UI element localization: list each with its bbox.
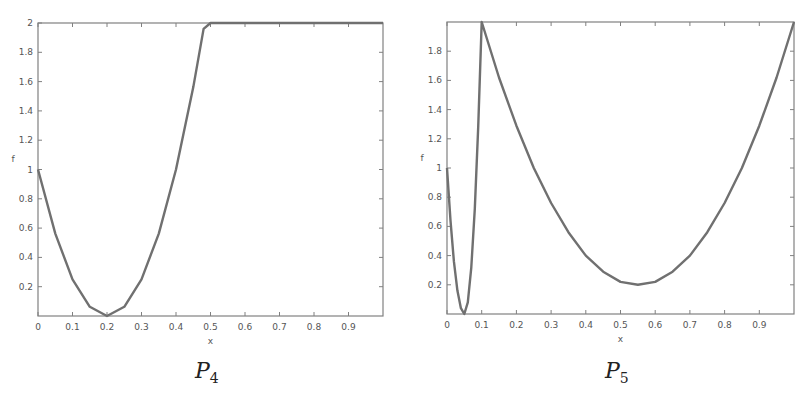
x-tick-label: 0: [444, 320, 450, 330]
x-tick-label: 0.1: [475, 320, 489, 330]
y-tick-label: 0.2: [19, 282, 33, 292]
caption-p4-main: P: [195, 358, 210, 383]
x-tick-label: 0.1: [65, 322, 79, 332]
plot-frame: [38, 23, 383, 316]
y-tick-label: 1.8: [428, 46, 443, 56]
y-tick-label: 0.6: [19, 223, 34, 233]
y-axis-label: f: [420, 153, 424, 163]
y-tick-label: 1.8: [19, 47, 34, 57]
x-tick-label: 0.5: [203, 322, 217, 332]
chart-p4: 00.10.20.30.40.50.60.70.80.90.20.40.60.8…: [0, 0, 400, 360]
y-tick-label: 1: [436, 163, 442, 173]
x-tick-label: 0.4: [579, 320, 594, 330]
caption-p4-sub: 4: [210, 370, 219, 386]
x-tick-label: 0.3: [544, 320, 558, 330]
x-tick-label: 0: [35, 322, 41, 332]
y-tick-label: 1: [27, 165, 33, 175]
chart-p5: 00.10.20.30.40.50.60.70.80.90.20.40.60.8…: [400, 0, 802, 360]
x-tick-label: 0.8: [717, 320, 732, 330]
y-tick-label: 0.4: [19, 252, 34, 262]
caption-p5-sub: 5: [620, 370, 629, 386]
y-tick-label: 1.6: [19, 77, 34, 87]
y-tick-label: 1.6: [428, 75, 443, 85]
x-tick-label: 0.9: [341, 322, 356, 332]
series-line: [447, 22, 794, 314]
caption-p5: P5: [605, 358, 629, 386]
y-tick-label: 1.2: [19, 135, 33, 145]
x-tick-label: 0.4: [169, 322, 184, 332]
x-tick-label: 0.2: [509, 320, 523, 330]
plot-p5: 00.10.20.30.40.50.60.70.80.90.20.40.60.8…: [400, 0, 802, 360]
y-tick-label: 0.8: [19, 194, 34, 204]
series-line: [38, 23, 383, 316]
x-tick-label: 0.6: [238, 322, 253, 332]
caption-p4: P4: [195, 358, 219, 386]
x-axis-label: x: [208, 336, 214, 346]
y-tick-label: 0.4: [428, 251, 443, 261]
x-tick-label: 0.8: [307, 322, 322, 332]
plot-p4: 00.10.20.30.40.50.60.70.80.90.20.40.60.8…: [0, 0, 400, 360]
x-tick-label: 0.2: [100, 322, 114, 332]
caption-p5-main: P: [605, 358, 620, 383]
x-tick-label: 0.7: [683, 320, 697, 330]
x-tick-label: 0.3: [134, 322, 148, 332]
y-tick-label: 1.2: [428, 134, 442, 144]
x-axis-label: x: [618, 334, 624, 344]
y-tick-label: 2: [27, 18, 33, 28]
x-tick-label: 0.6: [648, 320, 663, 330]
x-tick-label: 0.5: [613, 320, 627, 330]
y-tick-label: 0.6: [428, 221, 443, 231]
y-tick-label: 0.2: [428, 280, 442, 290]
x-tick-label: 0.7: [272, 322, 286, 332]
y-axis-label: f: [11, 154, 15, 164]
y-tick-label: 0.8: [428, 192, 443, 202]
x-tick-label: 0.9: [752, 320, 767, 330]
y-tick-label: 1.4: [19, 106, 34, 116]
y-tick-label: 1.4: [428, 105, 443, 115]
